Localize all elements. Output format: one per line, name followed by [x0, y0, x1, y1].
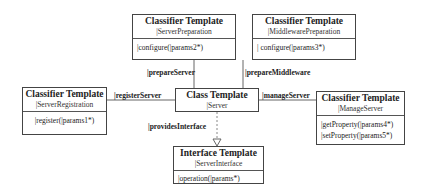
operation-set-property: |setProperty(|params5*) — [321, 130, 400, 141]
realization-arrowhead-icon — [213, 139, 221, 146]
classifier-name: |MiddlewarePreparation — [255, 27, 353, 36]
server-class-box[interactable]: Class Template |Server — [175, 88, 259, 112]
server-preparation-box[interactable]: Classifier Template |ServerPreparation |… — [132, 14, 236, 60]
classifier-name: |ManageServer — [319, 104, 402, 113]
stereotype-label: Classifier Template — [319, 93, 402, 104]
manage-server-box[interactable]: Classifier Template |ManageServer |getPr… — [316, 91, 405, 145]
classifier-name: |ServerRegistration — [25, 100, 104, 109]
class-name: |Server — [178, 101, 256, 110]
server-registration-box[interactable]: Classifier Template |ServerRegistration … — [22, 87, 107, 135]
edge-label-provides-interface: |providesInterface — [148, 122, 206, 131]
classifier-name: |ServerPreparation — [135, 27, 233, 36]
operation-register: |register(|params1*) — [27, 115, 102, 126]
edge-label-register-server: |registerServer — [114, 91, 161, 100]
operation-configure: | configure(|params3*) — [257, 42, 351, 53]
edge-label-manage-server: |manageServer — [262, 91, 310, 100]
stereotype-label: Classifier Template — [255, 16, 353, 27]
operation-get-property: |getProperty(|params4*) — [321, 119, 400, 130]
operation-configure: |configure(|params2*) — [137, 42, 231, 53]
server-interface-box[interactable]: Interface Template |ServerInterface |ope… — [173, 146, 264, 184]
stereotype-label: Interface Template — [176, 148, 261, 159]
operation-operation: |operation(|params*) — [178, 173, 259, 184]
middleware-preparation-box[interactable]: Classifier Template |MiddlewarePreparati… — [252, 14, 356, 60]
stereotype-label: Classifier Template — [135, 16, 233, 27]
edge-label-prepare-server: |prepareServer — [147, 68, 195, 77]
edge-label-prepare-middleware: |prepareMiddleware — [245, 68, 310, 77]
interface-name: |ServerInterface — [176, 159, 261, 168]
stereotype-label: Class Template — [178, 90, 256, 101]
stereotype-label: Classifier Template — [25, 89, 104, 100]
